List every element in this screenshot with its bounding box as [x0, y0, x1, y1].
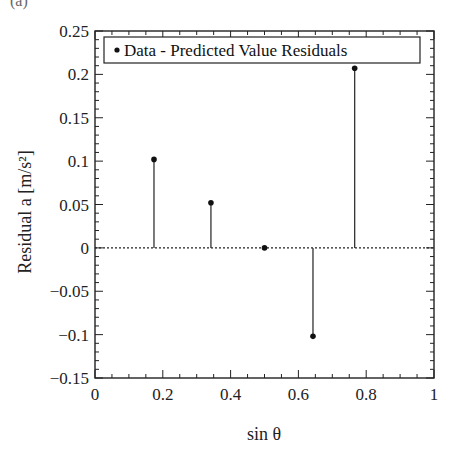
y-axis-label: Residual a [m/s²] — [15, 150, 35, 273]
data-point — [310, 248, 316, 339]
data-point — [208, 200, 214, 248]
y-tick-label: 0.25 — [59, 22, 89, 41]
axis-ticks — [95, 31, 434, 378]
plot-area — [95, 31, 434, 378]
caption-fragment: (a) — [10, 0, 28, 10]
y-tick-label: −0.05 — [50, 282, 89, 301]
y-tick-label: 0.15 — [59, 109, 89, 128]
data-point — [151, 157, 157, 248]
y-tick-label: −0.1 — [58, 326, 89, 345]
legend-marker-dot-icon — [114, 47, 119, 52]
x-tick-label: 0.4 — [220, 385, 242, 404]
legend-entry: Data - Predicted Value Residuals — [124, 41, 347, 60]
x-tick-label: 0 — [91, 385, 100, 404]
plot-frame — [95, 31, 434, 378]
residual-stem-chart: (a) 00.20.40.60.81−0.15−0.1−0.0500.050.1… — [0, 0, 449, 454]
data-marker-dot-icon — [310, 334, 316, 340]
x-tick-label: 0.6 — [288, 385, 309, 404]
data-marker-dot-icon — [208, 200, 214, 206]
data-point — [262, 245, 268, 251]
tick-labels: 00.20.40.60.81−0.15−0.1−0.0500.050.10.15… — [50, 22, 439, 404]
y-tick-label: 0 — [81, 239, 90, 258]
data-marker-dot-icon — [262, 245, 268, 251]
y-tick-label: 0.2 — [68, 65, 89, 84]
data-marker-dot-icon — [352, 66, 358, 72]
x-tick-label: 0.2 — [152, 385, 173, 404]
x-tick-label: 0.8 — [356, 385, 377, 404]
y-tick-label: −0.15 — [50, 369, 89, 388]
data-series — [151, 66, 357, 340]
x-axis-label: sin θ — [247, 424, 281, 444]
data-marker-dot-icon — [151, 157, 157, 163]
data-point — [352, 66, 358, 248]
y-tick-label: 0.05 — [59, 196, 89, 215]
x-tick-label: 1 — [430, 385, 439, 404]
legend: Data - Predicted Value Residuals — [104, 37, 420, 63]
y-tick-label: 0.1 — [68, 152, 89, 171]
